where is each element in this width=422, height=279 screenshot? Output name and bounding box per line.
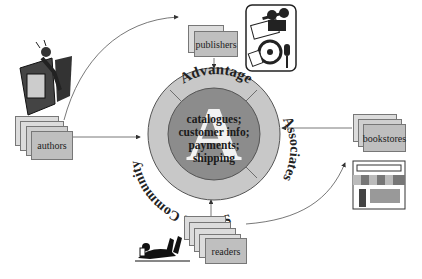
publishers-label: publishers [195,39,236,50]
readers-label: readers [212,246,241,257]
node-authors[interactable]: authors [31,131,73,160]
center-line-2: customer info; [178,126,249,138]
ring-label-right: Associates [280,114,303,184]
node-publishers[interactable]: publishers [194,31,238,57]
node-readers[interactable]: readers [205,238,247,264]
authors-label: authors [37,140,66,151]
film-projector-icon [246,5,296,71]
writer-at-desk-icon [20,40,72,115]
bookstores-label: bookstores [363,133,406,144]
node-bookstores[interactable]: bookstores [363,124,406,152]
storefront-icon [353,161,405,209]
center-line-3: payments; [188,139,239,152]
center-line-1: catalogues; [187,113,242,126]
hub-wheel: A Advantage Associates Sales & Community… [127,61,302,231]
reading-person-icon [135,236,190,261]
center-line-4: shipping [193,152,235,165]
